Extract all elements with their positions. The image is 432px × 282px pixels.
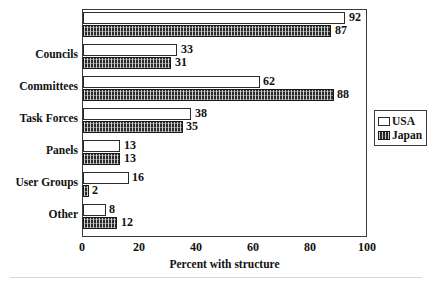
bar-usa[interactable] <box>83 204 106 216</box>
bar-usa[interactable] <box>83 44 177 56</box>
category-label-other: Other <box>0 208 78 220</box>
category-label-task-forces: Task Forces <box>0 112 78 124</box>
bar-japan[interactable] <box>83 121 183 133</box>
bar-japan[interactable] <box>83 89 334 101</box>
legend-label-usa: USA <box>392 115 415 127</box>
bar-japan[interactable] <box>83 25 331 37</box>
legend: USA Japan <box>374 110 427 146</box>
legend-item-usa[interactable]: USA <box>378 114 422 128</box>
bar-usa[interactable] <box>83 12 345 24</box>
bar-value-japan: 2 <box>92 183 98 198</box>
category-label-panels: Panels <box>0 144 78 156</box>
category-label-councils: Councils <box>0 48 78 60</box>
x-tick-20: 20 <box>119 240 159 255</box>
legend-swatch-usa-icon <box>378 117 390 126</box>
bar-japan[interactable] <box>83 57 171 69</box>
bar-japan[interactable] <box>83 217 117 229</box>
category-label-committees: Committees <box>0 80 78 92</box>
x-tick-40: 40 <box>176 240 216 255</box>
x-tick-0: 0 <box>62 240 102 255</box>
category-label-user-groups: User Groups <box>0 176 78 188</box>
x-axis-title: Percent with structure <box>82 258 367 270</box>
x-tick-100: 100 <box>347 240 387 255</box>
bar-usa[interactable] <box>83 108 191 120</box>
bar-value-usa: 92 <box>349 10 361 25</box>
bar-usa[interactable] <box>83 172 129 184</box>
bar-japan[interactable] <box>83 185 89 197</box>
x-tick-80: 80 <box>290 240 330 255</box>
bar-value-japan: 35 <box>186 119 198 134</box>
legend-swatch-japan-icon <box>378 131 390 140</box>
plot-area: 92 87 33 31 62 <box>82 9 367 237</box>
x-tick-60: 60 <box>233 240 273 255</box>
legend-label-japan: Japan <box>392 129 422 141</box>
bar-value-japan: 88 <box>337 87 349 102</box>
bar-usa[interactable] <box>83 140 120 152</box>
bar-value-japan: 13 <box>124 151 136 166</box>
legend-item-japan[interactable]: Japan <box>378 128 422 142</box>
bar-usa[interactable] <box>83 76 260 88</box>
bar-value-usa: 16 <box>132 170 144 185</box>
bar-value-japan: 87 <box>335 23 347 38</box>
bar-value-japan: 12 <box>121 215 133 230</box>
scan-artifact-line <box>10 277 422 278</box>
bar-value-japan: 31 <box>175 55 187 70</box>
bar-japan[interactable] <box>83 153 120 165</box>
bar-value-usa: 8 <box>109 202 115 217</box>
bar-value-usa: 62 <box>263 74 275 89</box>
bar-chart-figure: Councils Committees Task Forces Panels U… <box>0 0 432 282</box>
